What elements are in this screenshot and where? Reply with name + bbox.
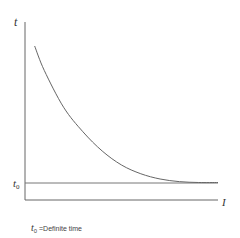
chart: t I t0 bbox=[0, 0, 240, 238]
y-axis-label: t bbox=[14, 15, 18, 29]
curve-line bbox=[35, 46, 218, 183]
t0-label: t0 bbox=[13, 177, 20, 191]
x-axis-label: I bbox=[221, 196, 227, 208]
legend-note: t0 =Definite time bbox=[31, 222, 82, 234]
